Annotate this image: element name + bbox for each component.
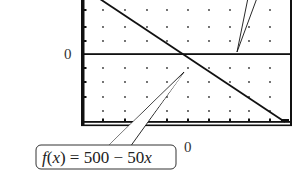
grid-dot [208, 26, 210, 28]
grid-dot [102, 110, 104, 112]
grid-dot [269, 9, 271, 11]
grid-dot [146, 9, 148, 11]
grid-dot [208, 67, 210, 69]
grid-dot [146, 96, 148, 98]
frame-bottom-outer [81, 125, 292, 127]
grid-dot [187, 26, 189, 28]
grid-dot [248, 67, 250, 69]
function-label-text: f(x) = 500 − 50x [42, 148, 152, 167]
grid-dot [166, 110, 168, 112]
line-endpoint [281, 119, 289, 122]
grid-dot [124, 9, 126, 11]
grid-dot [229, 40, 231, 42]
grid-dot [269, 26, 271, 28]
grid-dot [124, 96, 126, 98]
grid-dot [229, 110, 231, 112]
grid-dot [229, 67, 231, 69]
grid-dot [146, 26, 148, 28]
frame-right-border [290, 0, 292, 126]
grid-dot [102, 67, 104, 69]
grid-dot [187, 110, 189, 112]
grid-dot [248, 110, 250, 112]
function-line [100, 0, 285, 122]
grid-dot [208, 96, 210, 98]
function-callout-tail [107, 72, 184, 147]
grid-dot [124, 40, 126, 42]
grid-dot [102, 9, 104, 11]
grid-dot [146, 67, 148, 69]
grid-dot [124, 81, 126, 83]
grid-dot [187, 67, 189, 69]
grid-dot [229, 81, 231, 83]
grid-dot [124, 110, 126, 112]
grid-dot [166, 67, 168, 69]
grid-dot [269, 67, 271, 69]
grid-dot [146, 81, 148, 83]
grid-dot [187, 96, 189, 98]
grid-dot [208, 81, 210, 83]
grid-dot [166, 26, 168, 28]
grid-dot [229, 26, 231, 28]
grid-dot [269, 81, 271, 83]
grid-dot [166, 9, 168, 11]
grid-dot [124, 67, 126, 69]
x-axis-zero-line [84, 53, 290, 55]
x-axis-zero-label: 0 [184, 139, 192, 155]
grid-dot [248, 40, 250, 42]
function-label-callout: f(x) = 500 − 50x [36, 145, 176, 169]
grid-dot [146, 40, 148, 42]
grid-dot [166, 81, 168, 83]
grid-dot [269, 96, 271, 98]
top-callout-tail [237, 0, 257, 52]
y-axis-zero-label: 0 [64, 46, 72, 62]
grid-dot [166, 40, 168, 42]
grid-dot [102, 96, 104, 98]
frame-bottom-inner [81, 121, 292, 123]
grid-dot [102, 40, 104, 42]
grid-dot [208, 40, 210, 42]
frame-left-border [81, 0, 85, 126]
grid-dot [208, 9, 210, 11]
grid-dot [208, 110, 210, 112]
grid-dot [229, 9, 231, 11]
grid-dot [102, 26, 104, 28]
grid-dot [124, 26, 126, 28]
grid-dot [248, 81, 250, 83]
grid-dot [229, 96, 231, 98]
grid-dot [102, 81, 104, 83]
graph-figure: f(x) = 500 − 50x 0 0 [0, 0, 294, 170]
grid-dot [269, 40, 271, 42]
grid-dot [187, 9, 189, 11]
grid-dot [248, 26, 250, 28]
grid-dot [187, 81, 189, 83]
grid-dot [187, 40, 189, 42]
